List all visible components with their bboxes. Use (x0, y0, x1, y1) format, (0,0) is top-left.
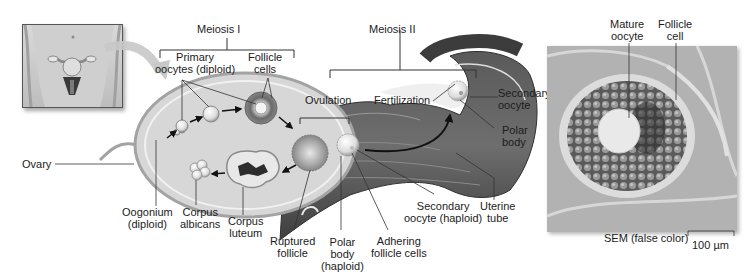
label-mature-oocyte: Mature oocyte (610, 18, 644, 42)
sem-caption: SEM (false color) (604, 232, 688, 244)
scale-bar (688, 231, 734, 236)
scale-bar-label: 100 µm (692, 239, 729, 251)
label-follicle-cell: Follicle cell (658, 18, 692, 42)
